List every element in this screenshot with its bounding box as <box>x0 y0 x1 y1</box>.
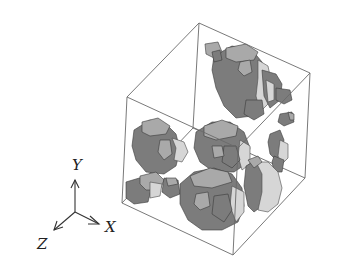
axis-triad: Y X Z <box>36 156 117 253</box>
z-axis-label: Z <box>36 235 48 253</box>
y-axis-label: Y <box>72 156 84 174</box>
z-axis-arrow <box>54 212 75 230</box>
left-cluster <box>126 118 188 204</box>
center-cluster <box>194 120 250 172</box>
small-right-fragments <box>268 112 294 172</box>
x-axis-arrow <box>75 212 99 224</box>
voxel-clusters <box>126 42 294 230</box>
voxel-cube-figure: Y X Z <box>0 0 341 276</box>
y-axis-arrow <box>71 180 79 212</box>
x-axis-label: X <box>104 218 117 236</box>
upper-right-cluster <box>205 42 292 120</box>
